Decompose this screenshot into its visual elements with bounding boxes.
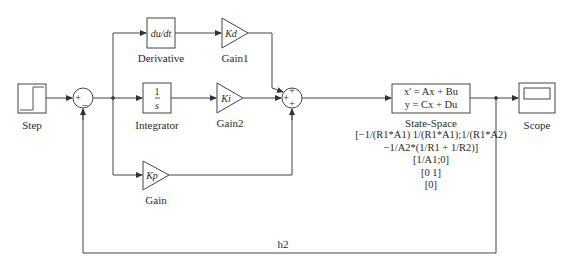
state-space-param-a-row2: −1/A2*(1/R1 + 1/R2)]	[355, 142, 506, 155]
state-space-equation-2: y = Cx + Du	[392, 98, 470, 111]
scope-label: Scope	[524, 119, 551, 131]
state-space-param-c: [0 1]	[355, 167, 506, 180]
wire-gain1-to-sum2	[248, 33, 272, 88]
wire-gain1-to-sum2-arrow	[272, 88, 283, 92]
state-space-parameters: [−1/(R1*A1) 1/(R1*A1);1/(R1*A2) −1/A2*(1…	[355, 129, 506, 192]
state-space-label: State-Space	[405, 117, 457, 129]
gain2-content: Ki	[218, 92, 234, 105]
gain-label: Gain	[145, 194, 166, 206]
gain1-content: Kd	[223, 27, 239, 40]
derivative-label: Derivative	[138, 52, 184, 64]
sum1-plus-sign: +	[75, 93, 81, 103]
gain2-label: Gain2	[217, 117, 244, 129]
integrator-denominator: s	[143, 99, 171, 112]
gain-content: Kp	[144, 169, 160, 182]
state-space-param-b: [1/A1;0]	[355, 154, 506, 167]
feedback-signal-label: h2	[278, 238, 289, 250]
step-block[interactable]	[18, 84, 46, 113]
sum2-plus-left: +	[283, 93, 289, 103]
integrator-label: Integrator	[135, 119, 178, 131]
derivative-content: du/dt	[147, 27, 175, 40]
sum2-plus-top: +	[289, 86, 295, 96]
state-space-equation-1: x' = Ax + Bu	[392, 85, 470, 98]
state-space-param-d: [0]	[355, 179, 506, 192]
scope-block[interactable]	[519, 83, 555, 113]
gain1-label: Gain1	[222, 52, 249, 64]
sum1-minus-sign: –	[83, 100, 88, 110]
state-space-param-a-row1: [−1/(R1*A1) 1/(R1*A1);1/(R1*A2)	[355, 129, 506, 142]
step-label: Step	[22, 119, 42, 131]
integrator-numerator: 1	[143, 85, 171, 98]
sum2-plus-bottom: +	[289, 99, 295, 109]
